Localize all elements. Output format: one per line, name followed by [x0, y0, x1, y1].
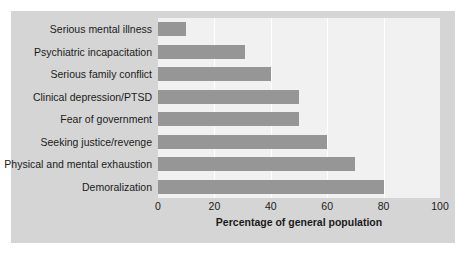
category-label: Fear of government: [60, 108, 152, 130]
bar: [158, 157, 355, 171]
x-tick-label: 100: [431, 200, 449, 212]
bar: [158, 90, 299, 104]
gridline: [384, 18, 385, 198]
plot-area: [158, 18, 440, 198]
category-label: Serious mental illness: [50, 18, 152, 40]
category-label: Demoralization: [82, 176, 152, 198]
x-tick-label: 40: [265, 200, 277, 212]
category-label: Psychiatric incapacitation: [34, 41, 152, 63]
bar: [158, 112, 299, 126]
x-axis-title: Percentage of general population: [158, 216, 440, 228]
x-tick-label: 60: [321, 200, 333, 212]
x-axis-tick-labels: 020406080100: [158, 200, 440, 216]
x-tick-label: 0: [155, 200, 161, 212]
category-label: Serious family conflict: [50, 63, 152, 85]
bar: [158, 22, 186, 36]
bar: [158, 180, 384, 194]
bar: [158, 67, 271, 81]
chart-panel: Serious mental illnessPsychiatric incapa…: [11, 11, 455, 243]
category-label: Seeking justice/revenge: [41, 131, 153, 153]
chart-figure: Serious mental illnessPsychiatric incapa…: [0, 0, 466, 253]
x-tick-label: 20: [209, 200, 221, 212]
category-label: Clinical depression/PTSD: [33, 86, 152, 108]
category-label: Physical and mental exhaustion: [4, 153, 152, 175]
bar: [158, 45, 245, 59]
category-axis-labels: Serious mental illnessPsychiatric incapa…: [11, 18, 156, 198]
bar: [158, 135, 327, 149]
x-tick-label: 80: [378, 200, 390, 212]
